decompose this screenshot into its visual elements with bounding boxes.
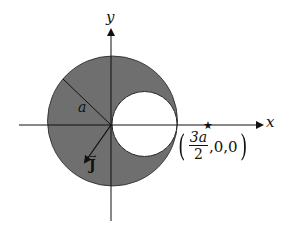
- current-density-label: → J: [89, 158, 96, 172]
- fraction-denominator: 2: [194, 146, 203, 161]
- radius-label: a: [78, 100, 86, 114]
- coordinate-rest: ,0,0: [209, 140, 238, 155]
- hole-circle: [112, 92, 177, 157]
- y-axis-label: y: [106, 10, 114, 25]
- fraction-numerator: 3a: [189, 130, 208, 146]
- fraction-3a-over-2: 3a 2: [189, 130, 208, 161]
- field-point-coordinates: ( 3a 2 ,0,0 ): [176, 130, 249, 161]
- vector-arrow-icon: →: [89, 152, 97, 161]
- open-paren: (: [178, 131, 185, 161]
- cylinder-with-hole-diagram: ★: [0, 0, 291, 234]
- close-paren: ): [240, 131, 247, 161]
- x-axis-label: x: [266, 115, 274, 130]
